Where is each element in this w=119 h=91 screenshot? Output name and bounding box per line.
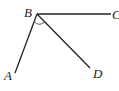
label-a: A (3, 68, 12, 83)
label-b: B (24, 5, 32, 20)
label-d: D (92, 66, 103, 81)
ray-ba (15, 14, 37, 73)
angle-diagram: B C A D (0, 0, 119, 91)
angle-arc-abd (34, 22, 45, 25)
label-c: C (112, 7, 119, 22)
